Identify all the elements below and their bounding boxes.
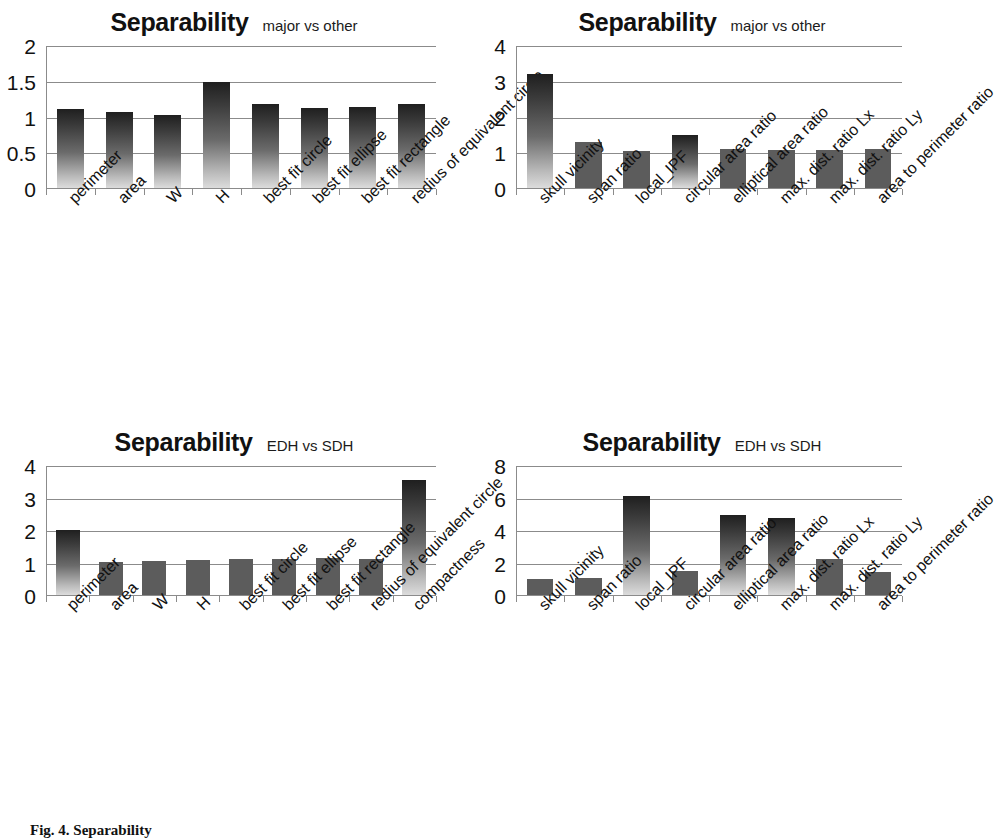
- y-axis: 02468: [472, 466, 512, 596]
- chart-subtitle: major vs other: [731, 17, 826, 34]
- bar-slot: [133, 465, 176, 595]
- bar[interactable]: [56, 530, 80, 595]
- x-axis-labels: perimeterareaWHbest fit circlebest fit e…: [0, 596, 468, 771]
- y-tick-label: 8: [494, 456, 506, 477]
- chart-subtitle: EDH vs SDH: [267, 437, 354, 454]
- bar-slot: [219, 465, 262, 595]
- chart-panel-edh-vs-sdh-shape: Separability EDH vs SDH 01234 perimetera…: [0, 428, 468, 828]
- y-tick-label: 1: [24, 553, 36, 574]
- y-tick-label: 2: [494, 107, 506, 128]
- y-tick-label: 4: [494, 36, 506, 57]
- chart-title-row: Separability EDH vs SDH: [0, 428, 468, 462]
- bar[interactable]: [252, 104, 279, 188]
- y-axis: 00.511.52: [2, 46, 42, 189]
- y-axis: 01234: [472, 46, 512, 189]
- bar[interactable]: [186, 560, 210, 595]
- chart-title-row: Separability EDH vs SDH: [468, 428, 936, 462]
- bar[interactable]: [203, 82, 230, 188]
- y-tick-label: 3: [494, 71, 506, 92]
- chart-title: Separability: [115, 428, 253, 457]
- bar-slot: [176, 465, 219, 595]
- chart-title: Separability: [578, 8, 716, 37]
- chart-title: Separability: [110, 8, 248, 37]
- x-axis-label: H: [194, 594, 213, 613]
- bar-slot: [192, 45, 241, 188]
- bar-slot: [241, 45, 290, 188]
- chart-panel-major-vs-other-ratio: Separability major vs other 01234 skull …: [468, 8, 936, 408]
- bar[interactable]: [527, 74, 554, 188]
- chart-panel-major-vs-other-shape: Separability major vs other 00.511.52 pe…: [0, 8, 468, 408]
- bar-slot: [144, 45, 193, 188]
- y-axis: 01234: [2, 466, 42, 596]
- y-tick-label: 2: [24, 521, 36, 542]
- y-tick-label: 4: [24, 456, 36, 477]
- y-tick-label: 2: [24, 36, 36, 57]
- chart-subtitle: EDH vs SDH: [735, 437, 822, 454]
- chart-title-row: Separability major vs other: [468, 8, 936, 42]
- bar-slot: [516, 465, 564, 595]
- x-axis-label: H: [213, 187, 232, 206]
- y-tick-label: 4: [494, 521, 506, 542]
- figure-caption: Fig. 4. Separability: [30, 822, 152, 839]
- y-tick-label: 3: [24, 488, 36, 509]
- chart-panel-edh-vs-sdh-ratio: Separability EDH vs SDH 02468 skull vici…: [468, 428, 936, 828]
- chart-title-row: Separability major vs other: [0, 8, 468, 42]
- y-tick-label: 2: [494, 553, 506, 574]
- x-axis-labels: skull vicinityspan ratiolocal_IPFcircula…: [468, 596, 936, 771]
- y-tick-label: 1: [494, 143, 506, 164]
- x-axis-labels: skull vicinityspan ratiolocal_IPFcircula…: [468, 189, 936, 364]
- chart-title: Separability: [583, 428, 721, 457]
- bar-slot: [46, 45, 95, 188]
- y-tick-label: 6: [494, 488, 506, 509]
- bar-slot: [516, 45, 564, 188]
- x-axis-labels: perimeterareaWHbest fit circlebest fit e…: [0, 189, 468, 364]
- bar[interactable]: [57, 109, 84, 188]
- bar[interactable]: [142, 561, 166, 595]
- bar[interactable]: [154, 115, 181, 188]
- chart-subtitle: major vs other: [263, 17, 358, 34]
- bar-slot: [46, 465, 89, 595]
- y-tick-label: 1: [24, 107, 36, 128]
- y-tick-label: 0.5: [7, 143, 36, 164]
- y-tick-label: 1.5: [7, 71, 36, 92]
